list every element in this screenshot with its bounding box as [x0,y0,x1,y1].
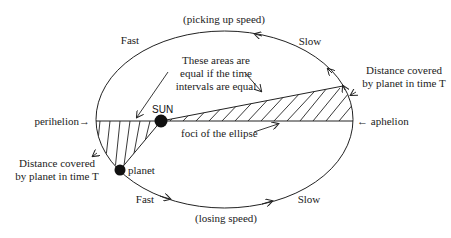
label-slow-bottom: Slow [298,193,321,205]
hatched-area-right [170,88,360,121]
label-fast-top: Fast [121,34,139,46]
label-aphelion: ← aphelion [357,115,409,127]
label-losing-speed: (losing speed) [195,212,257,225]
label-distance-left-2: by planet in time T [15,170,99,182]
label-planet: planet [128,164,155,176]
label-perihelion: perihelion→ [34,115,90,127]
label-distance-right-2: by planet in time T [362,77,446,89]
radius-line-planet [120,121,161,170]
label-picking-up-speed: (picking up speed) [183,13,265,26]
pointer-distance-right [351,92,356,95]
label-areas-note-1: These areas are [182,54,250,66]
pointer-distance-left [93,153,97,156]
orbit-arrow-bottom-left [160,196,170,199]
planet-icon [115,165,126,176]
label-sun: SUN [152,104,173,115]
sun-icon [155,115,168,128]
label-distance-left-1: Distance covered [19,157,96,169]
label-fast-bottom: Fast [136,193,154,205]
label-foci: foci of the ellipse [181,127,258,139]
label-areas-note-3: intervals are equal [176,80,257,92]
label-distance-right-1: Distance covered [366,64,443,76]
label-areas-note-2: equal if the time [180,67,252,79]
label-slow-top: Slow [299,35,322,47]
kepler-orbit-diagram: (picking up speed) Fast Slow These areas… [0,0,451,238]
